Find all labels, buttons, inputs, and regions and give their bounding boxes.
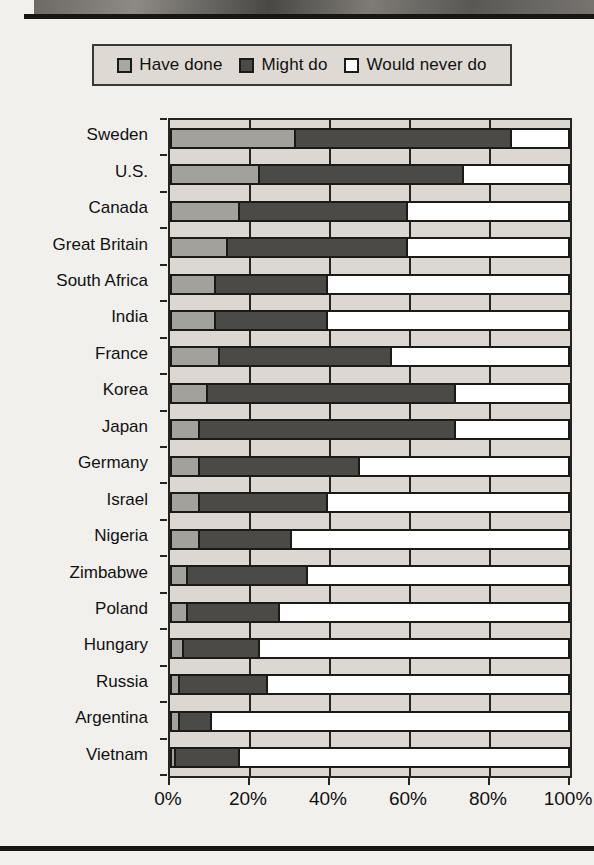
y-axis-category-label: Russia bbox=[0, 672, 160, 692]
bar-row bbox=[170, 128, 570, 149]
y-axis-tick bbox=[160, 592, 167, 594]
bar-segment-would-never-do bbox=[280, 604, 568, 621]
bar-row bbox=[170, 529, 570, 550]
y-axis-tick bbox=[160, 774, 167, 776]
stacked-bar bbox=[170, 529, 570, 550]
legend-item-would-never-do: Would never do bbox=[344, 55, 486, 75]
bar-segment-would-never-do bbox=[328, 312, 568, 329]
bar-segment-would-never-do bbox=[408, 239, 568, 256]
x-axis-tick-label: 80% bbox=[469, 788, 507, 810]
bar-segment-would-never-do bbox=[360, 458, 568, 475]
bar-segment-would-never-do bbox=[292, 531, 568, 548]
bar-segment-have-done bbox=[172, 130, 296, 147]
y-axis-tick bbox=[160, 337, 167, 339]
bar-segment-might-do bbox=[260, 166, 464, 183]
bar-segment-would-never-do bbox=[456, 421, 568, 438]
chart-plot-area bbox=[168, 118, 572, 778]
bar-segment-would-never-do bbox=[260, 640, 568, 657]
y-axis-tick bbox=[160, 665, 167, 667]
stacked-bar bbox=[170, 237, 570, 258]
y-axis-category-label: India bbox=[0, 307, 160, 327]
stacked-bar bbox=[170, 711, 570, 732]
bar-segment-would-never-do bbox=[328, 494, 568, 511]
bar-segment-have-done bbox=[172, 312, 216, 329]
square-swatch-dark-icon bbox=[239, 58, 254, 73]
bar-segment-have-done bbox=[172, 166, 260, 183]
bar-segment-might-do bbox=[200, 531, 292, 548]
stacked-bar bbox=[170, 638, 570, 659]
bar-segment-would-never-do bbox=[464, 166, 568, 183]
bar-row bbox=[170, 492, 570, 513]
bar-segment-might-do bbox=[180, 713, 212, 730]
bar-row bbox=[170, 674, 570, 695]
x-axis-tick bbox=[568, 776, 570, 785]
bar-segment-might-do bbox=[216, 276, 328, 293]
bar-segment-have-done bbox=[172, 421, 200, 438]
bar-segment-have-done bbox=[172, 276, 216, 293]
x-axis-tick-label: 40% bbox=[309, 788, 347, 810]
bar-row bbox=[170, 164, 570, 185]
bar-segment-would-never-do bbox=[512, 130, 568, 147]
stacked-bar bbox=[170, 565, 570, 586]
bar-row bbox=[170, 201, 570, 222]
bar-row bbox=[170, 565, 570, 586]
x-axis-line bbox=[168, 776, 570, 778]
x-axis-tick bbox=[248, 776, 250, 785]
bar-row bbox=[170, 602, 570, 623]
bar-segment-would-never-do bbox=[308, 567, 568, 584]
x-axis-tick-label: 60% bbox=[389, 788, 427, 810]
bar-segment-have-done bbox=[172, 531, 200, 548]
bar-segment-have-done bbox=[172, 203, 240, 220]
y-axis-labels: SwedenU.S.CanadaGreat BritainSouth Afric… bbox=[0, 118, 160, 774]
bar-segment-have-done bbox=[172, 385, 208, 402]
bar-segment-would-never-do bbox=[212, 713, 568, 730]
bar-segment-have-done bbox=[172, 604, 188, 621]
bar-segment-might-do bbox=[296, 130, 512, 147]
bar-segment-might-do bbox=[184, 640, 260, 657]
square-swatch-white-icon bbox=[344, 58, 359, 73]
bar-segment-have-done bbox=[172, 567, 188, 584]
bar-segment-might-do bbox=[180, 676, 268, 693]
x-axis-tick-label: 100% bbox=[544, 788, 593, 810]
square-swatch-light-icon bbox=[117, 58, 132, 73]
y-axis-tick bbox=[160, 410, 167, 412]
y-axis-category-label: Canada bbox=[0, 198, 160, 218]
y-axis-tick bbox=[160, 701, 167, 703]
legend-item-have-done: Have done bbox=[117, 55, 222, 75]
y-axis-category-label: South Africa bbox=[0, 271, 160, 291]
stacked-bar bbox=[170, 456, 570, 477]
y-axis-category-label: Japan bbox=[0, 417, 160, 437]
bar-segment-would-never-do bbox=[392, 348, 568, 365]
bottom-horizontal-rule bbox=[0, 846, 594, 851]
stacked-bar bbox=[170, 492, 570, 513]
bar-segment-have-done bbox=[172, 239, 228, 256]
y-axis-category-label: Israel bbox=[0, 490, 160, 510]
bar-segment-have-done bbox=[172, 458, 200, 475]
y-axis-category-label: Germany bbox=[0, 453, 160, 473]
y-axis-tick bbox=[160, 154, 167, 156]
y-axis-tick bbox=[160, 482, 167, 484]
y-axis-tick bbox=[160, 519, 167, 521]
bar-row bbox=[170, 456, 570, 477]
y-axis-category-label: Korea bbox=[0, 380, 160, 400]
top-horizontal-rule bbox=[24, 14, 594, 19]
y-axis-tick bbox=[160, 191, 167, 193]
bar-segment-would-never-do bbox=[268, 676, 568, 693]
y-axis-tick bbox=[160, 555, 167, 557]
bar-row bbox=[170, 237, 570, 258]
y-axis-category-label: Vietnam bbox=[0, 745, 160, 765]
stacked-bar bbox=[170, 346, 570, 367]
stacked-bar bbox=[170, 383, 570, 404]
bar-segment-have-done bbox=[172, 494, 200, 511]
photo-strip bbox=[34, 0, 594, 14]
stacked-bar bbox=[170, 419, 570, 440]
bar-row bbox=[170, 419, 570, 440]
legend-item-might-do: Might do bbox=[239, 55, 327, 75]
y-axis-tick bbox=[160, 373, 167, 375]
bar-segment-might-do bbox=[228, 239, 408, 256]
x-axis-tick bbox=[408, 776, 410, 785]
x-axis-tick-label: 20% bbox=[229, 788, 267, 810]
bar-segment-would-never-do bbox=[328, 276, 568, 293]
legend-label: Have done bbox=[139, 55, 222, 75]
bar-segment-might-do bbox=[240, 203, 408, 220]
